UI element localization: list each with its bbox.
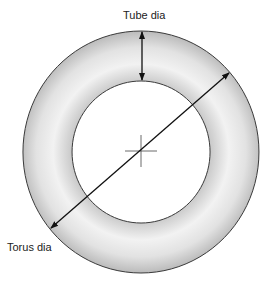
- torus-dia-label: Torus dia: [7, 241, 52, 253]
- tube-dia-label: Tube dia: [123, 9, 165, 21]
